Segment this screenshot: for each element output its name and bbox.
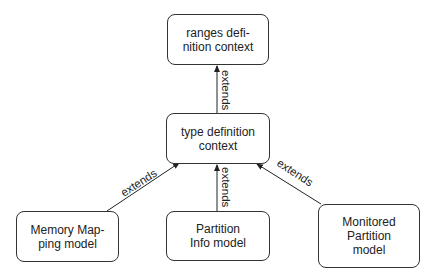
node-label: ping model xyxy=(38,237,97,251)
node-label: ranges defi- xyxy=(186,26,249,40)
edge-label-memory-to-type: extends xyxy=(119,167,160,199)
edge-label-partition-to-type: extends xyxy=(220,167,232,208)
node-label: context xyxy=(199,139,238,153)
node-label: Monitored xyxy=(342,215,395,229)
node-label: nition context xyxy=(183,40,254,54)
node-label: type definition xyxy=(181,125,255,139)
node-label: Partition xyxy=(347,229,391,243)
node-memory-mapping-model: Memory Map-ping model xyxy=(16,211,119,262)
node-type-definition-context: type definitioncontext xyxy=(166,113,270,164)
edge-label-monitored-to-type: extends xyxy=(275,157,316,189)
node-partition-info-model: PartitionInfo model xyxy=(166,211,270,261)
node-label: model xyxy=(353,243,386,257)
node-label: Info model xyxy=(190,236,246,250)
node-label: Partition xyxy=(196,222,240,236)
edge-label-type-to-ranges: extends xyxy=(220,70,232,111)
node-ranges-definition-context: ranges defi-nition context xyxy=(167,14,269,65)
node-monitored-partition-model: MonitoredPartitionmodel xyxy=(318,204,420,268)
node-label: Memory Map- xyxy=(30,223,104,237)
